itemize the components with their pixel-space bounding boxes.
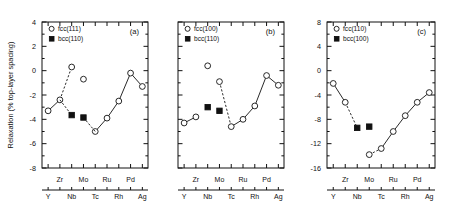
data-point-fcc(110)-Ru: [390, 129, 396, 135]
y-tick-label: -6: [30, 139, 36, 148]
y-tick-label: -16: [311, 164, 321, 173]
data-point-fcc(110)-Zr: [342, 99, 348, 105]
data-point-fcc(110)-Pd: [414, 99, 420, 105]
element-label-Pd: Pd: [413, 176, 422, 183]
figure-svg: 420-2-4-6-8YZrNbMoTcRuRhPdAg(a)fcc(111)b…: [0, 0, 453, 211]
data-point-fcc(111)-Mo: [81, 76, 87, 82]
element-label-Rh: Rh: [401, 193, 410, 200]
data-point-bcc(110)-Mo: [81, 115, 86, 120]
legend-marker-open-circle: [49, 26, 54, 31]
data-point-fcc(111)-Y: [45, 108, 51, 114]
data-point-fcc(100)-Ru: [240, 116, 246, 122]
data-point-fcc(100)-Pd: [264, 73, 270, 79]
data-point-fcc(111)-Pd: [128, 70, 134, 76]
element-label-Y: Y: [182, 193, 187, 200]
element-label-Y: Y: [331, 193, 336, 200]
y-tick-label: -4: [30, 115, 36, 124]
series-line-fcc(110): [333, 83, 345, 102]
data-point-fcc(100)-Mo: [217, 79, 223, 85]
element-label-Mo: Mo: [215, 176, 225, 183]
data-point-fcc(100)-Ag: [275, 82, 281, 88]
element-label-Zr: Zr: [57, 176, 64, 183]
element-label-Ag: Ag: [138, 193, 147, 201]
data-point-bcc(100)-Nb: [355, 125, 360, 130]
data-point-fcc(110)-Tc: [378, 146, 384, 152]
data-point-fcc(110)-Ag: [426, 90, 432, 96]
relaxation-figure: 420-2-4-6-8YZrNbMoTcRuRhPdAg(a)fcc(111)b…: [0, 0, 453, 211]
legend-marker-open-circle: [185, 26, 190, 31]
element-label-Pd: Pd: [126, 176, 135, 183]
data-point-fcc(100)-Rh: [252, 103, 258, 109]
legend-marker-filled-square: [334, 37, 339, 42]
data-point-fcc(111)-Nb: [69, 64, 75, 70]
legend-marker-filled-square: [49, 37, 54, 42]
element-label-Tc: Tc: [92, 193, 100, 200]
element-label-Ag: Ag: [274, 193, 283, 201]
y-tick-label: -2: [30, 91, 36, 100]
plot-frame: [42, 22, 148, 168]
y-tick-label: -4: [315, 91, 321, 100]
series-line-dashed-fcc(110): [345, 102, 357, 128]
legend-label-fcc(100): fcc(100): [194, 25, 218, 33]
element-label-Rh: Rh: [114, 193, 123, 200]
data-point-fcc(100)-Nb: [205, 63, 211, 69]
element-label-Y: Y: [46, 193, 51, 200]
element-label-Tc: Tc: [228, 193, 236, 200]
y-tick-label: 8: [317, 18, 321, 27]
element-label-Mo: Mo: [364, 176, 374, 183]
data-point-bcc(110)-Nb: [69, 112, 74, 117]
data-point-bcc(110)-Nb: [205, 104, 210, 109]
panel-a: 420-2-4-6-8YZrNbMoTcRuRhPdAg(a)fcc(111)b…: [30, 18, 148, 201]
element-label-Mo: Mo: [79, 176, 89, 183]
series-line-fcc(110): [381, 93, 429, 149]
legend-label-bcc(110): bcc(110): [194, 35, 219, 43]
data-point-fcc(111)-Tc: [92, 129, 98, 135]
y-tick-label: 0: [317, 66, 321, 75]
legend-marker-filled-square: [185, 37, 190, 42]
element-label-Rh: Rh: [250, 193, 259, 200]
data-point-fcc(110)-Y: [330, 81, 336, 87]
data-point-fcc(111)-Ru: [104, 115, 110, 121]
data-point-bcc(110)-Mo: [217, 108, 222, 113]
data-point-fcc(111)-Rh: [116, 98, 122, 104]
element-label-Nb: Nb: [67, 193, 76, 200]
element-label-Ru: Ru: [389, 176, 398, 183]
legend-label-fcc(111): fcc(111): [58, 25, 81, 33]
series-line-dashed-fcc(111): [60, 67, 72, 100]
series-line-fcc(100): [231, 76, 278, 127]
panel-tag: (a): [130, 27, 140, 36]
data-point-fcc(110)-Mo: [366, 152, 372, 158]
element-label-Ru: Ru: [103, 176, 112, 183]
y-tick-label: -12: [311, 139, 321, 148]
data-point-fcc(111)-Ag: [139, 84, 145, 90]
y-tick-label: 4: [32, 18, 36, 27]
element-label-Tc: Tc: [378, 193, 386, 200]
element-label-Ag: Ag: [425, 193, 434, 201]
element-label-Ru: Ru: [239, 176, 248, 183]
series-line-dashed-fcc(100): [219, 82, 231, 127]
panel-tag: (b): [266, 27, 276, 36]
y-tick-label: 0: [32, 66, 36, 75]
panel-b: YZrNbMoTcRuRhPdAg(b)fcc(100)bcc(110): [178, 22, 284, 201]
y-tick-label: -8: [30, 164, 36, 173]
y-tick-label: 4: [317, 42, 321, 51]
data-point-fcc(110)-Rh: [402, 113, 408, 119]
legend-label-bcc(110): bcc(110): [58, 35, 83, 43]
element-label-Pd: Pd: [262, 176, 271, 183]
y-axis-label: Relaxation (% top-layer spacing): [6, 42, 15, 149]
element-label-Zr: Zr: [193, 176, 200, 183]
legend-label-fcc(110): fcc(110): [343, 25, 366, 33]
data-point-bcc(100)-Mo: [367, 124, 372, 129]
plot-frame: [178, 22, 284, 168]
data-point-fcc(100)-Y: [181, 120, 187, 126]
data-point-fcc(100)-Zr: [193, 114, 199, 120]
legend-label-bcc(100): bcc(100): [343, 35, 369, 43]
panel-c: 840-4-8-12-16YZrNbMoTcRuRhPdAg(c)fcc(110…: [311, 18, 435, 201]
y-tick-label: 2: [32, 42, 36, 51]
element-label-Nb: Nb: [203, 193, 212, 200]
element-label-Nb: Nb: [353, 193, 362, 200]
y-tick-label: -8: [315, 115, 321, 124]
legend-marker-open-circle: [334, 26, 339, 31]
element-label-Zr: Zr: [342, 176, 349, 183]
panel-tag: (c): [417, 27, 426, 36]
